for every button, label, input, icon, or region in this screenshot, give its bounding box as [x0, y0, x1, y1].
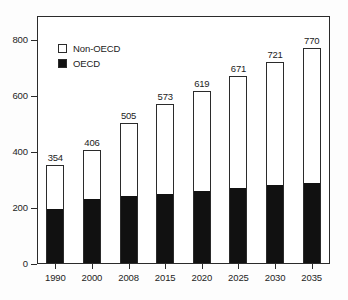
- x-tick-mark-2008: [129, 264, 130, 269]
- bar-segment-oecd-2008: [121, 196, 137, 263]
- bar-segment-oecd-2000: [84, 199, 100, 263]
- x-tick-label-2025: 2025: [228, 272, 249, 283]
- legend-item-non-oecd: Non-OECD: [58, 42, 120, 55]
- x-tick-mark-1990: [55, 264, 56, 269]
- bar-value-label-2035: 770: [304, 36, 319, 46]
- bar-segment-oecd-2020: [194, 191, 210, 263]
- y-tick-label-800: 800: [12, 35, 28, 45]
- bar-value-label-2000: 406: [84, 138, 99, 148]
- x-tick-mark-2020: [202, 264, 203, 269]
- x-tick-label-2030: 2030: [265, 272, 286, 283]
- x-tick-label-2020: 2020: [191, 272, 212, 283]
- bar-value-label-1990: 354: [48, 153, 63, 163]
- x-tick-mark-2030: [275, 264, 276, 269]
- y-tick-label-400: 400: [12, 147, 28, 157]
- bar-segment-oecd-2035: [304, 183, 320, 263]
- bar-segment-oecd-2030: [267, 185, 283, 263]
- bar-2035: [303, 48, 321, 264]
- x-tick-mark-2035: [312, 264, 313, 269]
- bar-1990: [46, 165, 64, 264]
- bar-segment-oecd-2025: [230, 188, 246, 263]
- y-tick-label-600: 600: [12, 91, 28, 101]
- bar-segment-oecd-2015: [157, 194, 173, 263]
- bar-2020: [193, 91, 211, 264]
- x-tick-mark-2000: [92, 264, 93, 269]
- legend-swatch-non-oecd-icon: [58, 44, 67, 53]
- bar-2025: [229, 76, 247, 264]
- legend-item-oecd: OECD: [58, 57, 120, 70]
- y-tick-label-200: 200: [12, 203, 28, 213]
- y-tick-mark-0: [31, 264, 37, 265]
- y-axis: 800 600 400 200 0: [0, 0, 37, 300]
- bar-2015: [156, 104, 174, 264]
- legend-swatch-oecd-icon: [58, 59, 67, 68]
- x-tick-label-2000: 2000: [82, 272, 103, 283]
- bar-2030: [266, 62, 284, 264]
- x-tick-label-1990: 1990: [45, 272, 66, 283]
- chart-container: 800 600 400 200 0 1990200020082015202020…: [0, 0, 348, 300]
- bar-2008: [120, 123, 138, 264]
- bar-value-label-2025: 671: [231, 64, 246, 74]
- legend-label-non-oecd: Non-OECD: [73, 44, 120, 54]
- x-tick-label-2008: 2008: [118, 272, 139, 283]
- chart-legend: Non-OECD OECD: [58, 42, 120, 72]
- bar-value-label-2015: 573: [158, 92, 173, 102]
- legend-label-oecd: OECD: [73, 59, 100, 69]
- bar-segment-oecd-1990: [47, 209, 63, 263]
- x-tick-mark-2025: [238, 264, 239, 269]
- bar-value-label-2030: 721: [267, 50, 282, 60]
- x-tick-mark-2015: [165, 264, 166, 269]
- y-tick-label-0: 0: [23, 259, 28, 269]
- bar-value-label-2020: 619: [194, 79, 209, 89]
- bar-2000: [83, 150, 101, 264]
- x-tick-label-2015: 2015: [155, 272, 176, 283]
- bar-value-label-2008: 505: [121, 111, 136, 121]
- x-tick-label-2035: 2035: [301, 272, 322, 283]
